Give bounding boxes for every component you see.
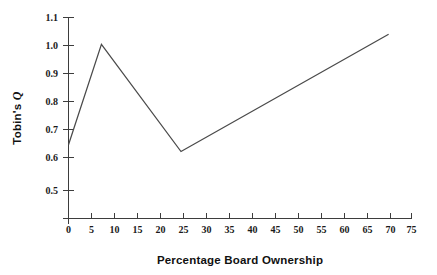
x-tick-label: 10 <box>110 224 120 235</box>
y-tick-label: 0.5 <box>46 185 59 196</box>
x-tick-label: 70 <box>386 224 396 235</box>
x-tick-label: 20 <box>156 224 166 235</box>
x-tick-label: 75 <box>407 224 417 235</box>
y-tick-label: 0.6 <box>46 152 59 163</box>
y-tick-label: 0.7 <box>46 124 59 135</box>
y-axis-title-prefix: Tobin's <box>11 100 23 144</box>
chart-svg: 1.1 1.0 0.9 0.8 0.7 0.6 0.5 <box>0 0 437 275</box>
y-axis-title: Tobin's Q <box>10 91 24 144</box>
x-tick-label: 5 <box>89 224 94 235</box>
x-axis-title: Percentage Board Ownership <box>157 254 323 266</box>
x-tick-label: 25 <box>179 224 189 235</box>
svg-text:Tobin's Q: Tobin's Q <box>10 91 24 144</box>
x-tick-label: 45 <box>271 224 281 235</box>
y-tick-label: 0.9 <box>46 68 59 79</box>
y-tick-label: 1.1 <box>46 12 59 23</box>
y-tick-label: 1.0 <box>46 40 59 51</box>
x-tick-label: 40 <box>248 224 258 235</box>
chart-figure: 1.1 1.0 0.9 0.8 0.7 0.6 0.5 <box>0 0 437 275</box>
x-tick-label: 35 <box>225 224 235 235</box>
x-tick-label: 50 <box>294 224 304 235</box>
x-tick-label: 30 <box>202 224 212 235</box>
x-tick-label: 15 <box>133 224 143 235</box>
x-tick-label: 65 <box>363 224 373 235</box>
x-tick-label: 55 <box>317 224 327 235</box>
y-axis-title-symbol: Q <box>10 91 24 100</box>
x-tick-label: 60 <box>340 224 350 235</box>
y-tick-label: 0.8 <box>46 96 59 107</box>
x-tick-label: 0 <box>66 224 71 235</box>
